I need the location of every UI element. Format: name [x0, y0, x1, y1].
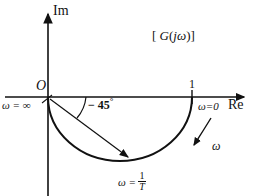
- one-over-t-fraction: 1T: [138, 171, 146, 192]
- transfer-g-symbol: G: [160, 28, 169, 43]
- imaginary-axis-label: Im: [53, 4, 69, 18]
- nyquist-plot-figure: Im Re O 1 [ G(jω)] ω = ∞ ω=0 − 45° ω ω =…: [0, 0, 261, 196]
- transfer-omega-symbol: ω: [177, 28, 186, 43]
- angle-value: − 45: [88, 98, 110, 112]
- omega-direction-arrow: [194, 118, 211, 145]
- omega-direction-label: ω: [212, 140, 220, 152]
- omega-zero-label: ω=0: [198, 101, 219, 112]
- omega-infinity-label: ω = ∞: [2, 100, 31, 111]
- origin-label: O: [36, 79, 46, 93]
- real-tick-label-one: 1: [189, 78, 195, 90]
- angle-arc: [77, 97, 86, 118]
- omega-t-lhs: ω =: [118, 177, 136, 188]
- fraction-numerator: 1: [138, 171, 145, 181]
- transfer-bracket-close: )]: [186, 28, 195, 43]
- degree-symbol: °: [110, 96, 114, 106]
- omega-equals-one-over-t-label: ω =1T: [118, 172, 146, 193]
- transfer-function-label: [ G(jω)]: [152, 29, 195, 42]
- minus-45-degree-label: − 45°: [88, 97, 113, 111]
- real-axis-label: Re: [228, 98, 244, 112]
- plot-canvas: [0, 0, 261, 196]
- fraction-denominator: T: [138, 182, 146, 192]
- transfer-bracket-open: [: [152, 28, 160, 43]
